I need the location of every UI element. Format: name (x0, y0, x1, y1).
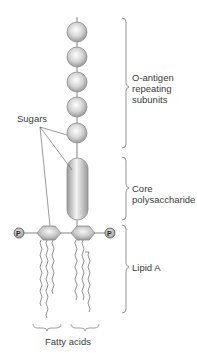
core-brace (122, 157, 129, 220)
lipid-a-sugar-left (37, 226, 61, 240)
o-antigen-line3: subunits (132, 94, 174, 105)
lps-diagram (0, 0, 197, 357)
phosphate-left-label: P (16, 228, 21, 239)
fatty-acids-label: Fatty acids (45, 336, 91, 347)
o-antigen-line2: repeating (132, 83, 174, 94)
o-antigen-line1: O-antigen (132, 72, 174, 83)
sugar-subunit-3 (67, 72, 87, 92)
fatty-acid-chain-4 (75, 240, 77, 300)
fatty-acid-chain-3 (52, 240, 54, 294)
o-antigen-subunits (67, 22, 87, 143)
sugar-subunit-2 (67, 47, 87, 67)
fatty-acid-chains (40, 240, 90, 318)
sugar-subunit-1 (67, 22, 87, 42)
sugar-subunit-4 (67, 97, 87, 117)
fatty-acid-chain-5 (82, 240, 84, 300)
fatty-acid-chain-6 (85, 252, 90, 312)
lipid-a-brace (122, 225, 129, 313)
core-line1: Core (132, 183, 195, 194)
o-antigen-brace (122, 18, 129, 148)
o-antigen-label: O-antigen repeating subunits (132, 72, 174, 105)
lipid-a-label: Lipid A (132, 262, 161, 273)
phosphate-right-label: P (107, 228, 112, 239)
fatty-acids-braces (33, 324, 99, 331)
fatty-acid-chain-2 (46, 240, 48, 318)
core-line2: polysaccharide (132, 194, 195, 205)
lipid-a-sugar-right (71, 226, 95, 240)
sugars-label: Sugars (17, 113, 47, 124)
fatty-acid-chain-1 (40, 240, 42, 306)
right-braces (122, 18, 129, 313)
sugar-subunit-5 (67, 123, 87, 143)
core-polysaccharide-label: Core polysaccharide (132, 183, 195, 205)
